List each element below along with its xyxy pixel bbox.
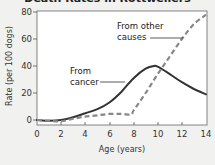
y-tick-label: 20 [21, 88, 32, 98]
y-tick-label: 0 [27, 115, 32, 125]
y-tick-label: 60 [21, 34, 32, 44]
y-tick-label: 80 [21, 7, 32, 17]
svg-text:From: From [70, 66, 91, 76]
chart: 80 60 40 20 0 Rate (per 100 dogs) 0 2 4 … [0, 0, 215, 165]
svg-text:cancer: cancer [70, 77, 99, 87]
x-tick-label: 14 [201, 129, 212, 139]
x-tick-label: 4 [82, 129, 87, 139]
x-tick-label: 10 [153, 129, 164, 139]
y-axis: 80 60 40 20 0 Rate (per 100 dogs) [5, 7, 37, 125]
x-tick-label: 6 [107, 129, 112, 139]
x-tick-label: 8 [131, 129, 136, 139]
y-axis-label: Rate (per 100 dogs) [5, 26, 14, 106]
svg-text:causes: causes [117, 32, 147, 42]
x-tick-label: 2 [58, 129, 63, 139]
svg-text:From other: From other [117, 21, 164, 31]
x-axis-label: Age (years) [99, 145, 145, 154]
y-tick-label: 40 [21, 61, 32, 71]
x-tick-label: 0 [34, 129, 39, 139]
x-axis: 0 2 4 6 8 10 12 14 Age (years) [34, 122, 211, 154]
x-tick-label: 12 [177, 129, 188, 139]
